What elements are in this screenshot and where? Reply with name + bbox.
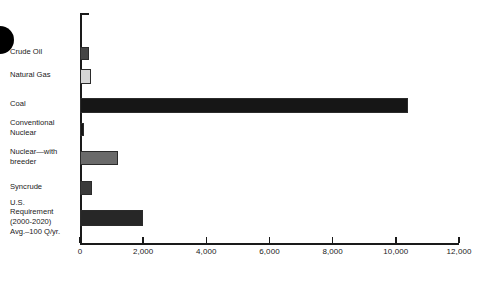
x-tick-label: 8,000: [322, 247, 343, 256]
category-label-text: Coal: [10, 99, 70, 109]
category-label-text: U.S. Requirement (2000-2020) Avg.–100 Q/…: [10, 198, 70, 236]
category-label: Crude Oil: [10, 47, 80, 57]
x-tick-label: 4,000: [196, 247, 217, 256]
category-label-text: Nuclear—with breeder: [10, 147, 70, 166]
category-label: Syncrude: [10, 182, 80, 192]
x-tick: [332, 237, 334, 243]
x-tick: [206, 237, 208, 243]
x-tick-label: 6,000: [259, 247, 280, 256]
x-tick-label: 0: [78, 247, 83, 256]
bar: [80, 151, 118, 165]
x-tick-label: 10,000: [383, 247, 408, 256]
horizontal-bar-chart: 02,0004,0006,0008,00010,00012,000 Crude …: [0, 0, 479, 284]
category-label-text: Natural Gas: [10, 70, 70, 80]
bar: [80, 210, 143, 226]
bar: [80, 98, 408, 113]
category-label: Conventional Nuclear: [10, 118, 80, 137]
category-label-text: Crude Oil: [10, 47, 70, 57]
category-label-text: Conventional Nuclear: [10, 118, 70, 137]
category-label: Natural Gas: [10, 70, 80, 80]
x-tick: [79, 237, 81, 243]
x-tick: [395, 237, 397, 243]
bar: [80, 69, 91, 84]
bar: [80, 123, 84, 136]
bar: [80, 47, 89, 60]
x-tick: [269, 237, 271, 243]
x-tick-label: 12,000: [446, 247, 471, 256]
y-axis-top-cap: [80, 13, 89, 15]
x-tick: [142, 237, 144, 243]
bar: [80, 181, 92, 195]
category-label-text: Syncrude: [10, 182, 70, 192]
category-label: Nuclear—with breeder: [10, 147, 80, 166]
x-tick: [458, 237, 460, 243]
category-label: Coal: [10, 99, 80, 109]
category-label: U.S. Requirement (2000-2020) Avg.–100 Q/…: [10, 198, 80, 236]
x-tick-label: 2,000: [133, 247, 154, 256]
x-axis-line: [80, 243, 459, 245]
